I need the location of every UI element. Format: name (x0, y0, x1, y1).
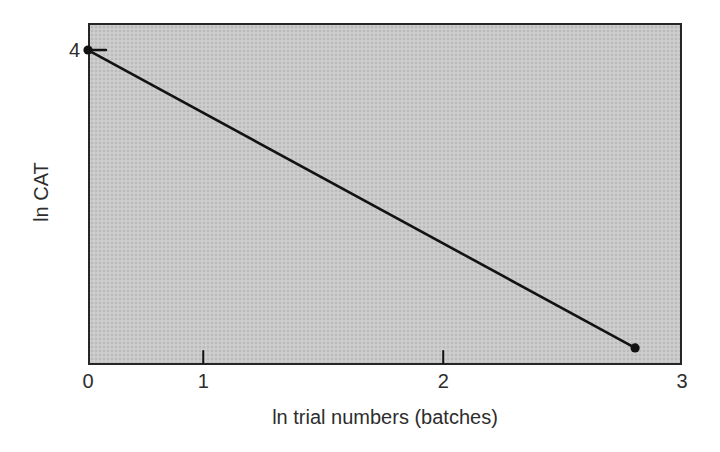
x-tick-label-2: 2 (438, 371, 449, 391)
y-axis-title: ln CAT (31, 162, 52, 222)
plot-area (88, 23, 682, 365)
y-tick-label-4: 4 (40, 40, 80, 60)
x-tick-label-1: 1 (198, 371, 209, 391)
x-axis-title: ln trial numbers (batches) (272, 407, 498, 428)
x-tick-label-3: 3 (676, 371, 687, 391)
x-tick-label-0: 0 (82, 371, 93, 391)
figure: 0 1 2 3 4 ln trial numbers (batches) ln … (0, 0, 720, 452)
